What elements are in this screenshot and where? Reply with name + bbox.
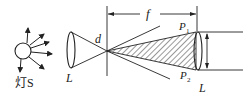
aperture-dimension	[205, 33, 209, 69]
optics-diagram: 灯S L d f P 1 P 2 L	[0, 0, 243, 96]
label-p2-sub: 2	[187, 76, 191, 84]
label-p1: P	[178, 20, 186, 32]
label-f: f	[146, 6, 152, 21]
f-dimension	[108, 12, 196, 16]
converging-cone	[71, 32, 107, 68]
label-p2: P	[179, 69, 187, 81]
label-lamp: 灯S	[15, 76, 34, 90]
lens-left	[67, 32, 75, 68]
label-lens-right: L	[198, 81, 206, 95]
label-p1-sub: 1	[186, 27, 190, 35]
lamp-source	[15, 28, 52, 72]
hatched-cone	[107, 32, 196, 70]
label-d: d	[95, 32, 102, 46]
label-lens-left: L	[65, 71, 73, 85]
